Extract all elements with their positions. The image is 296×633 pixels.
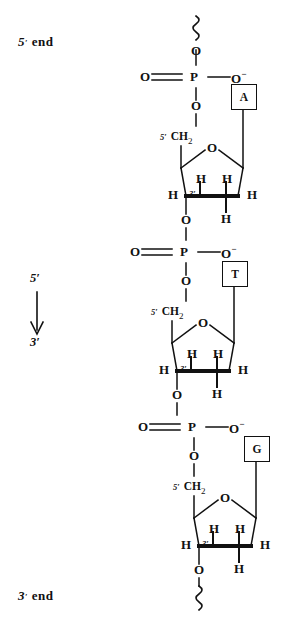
nucleotide3-h-c3: H	[209, 522, 219, 535]
nucleotide1-h-c4: H	[168, 188, 178, 201]
three-prime-end-prime: 3	[18, 588, 25, 603]
base-label-adenine: A	[240, 91, 248, 103]
nucleotide1-h-c1: H	[247, 188, 257, 201]
nucleotide2-c5-methylene: 5′ CH2	[151, 302, 183, 321]
nucleotide1-c3-oxygen: O	[181, 213, 191, 226]
nucleotide3-c3-label: 3′	[202, 540, 209, 549]
nucleotide2-h-c2: H	[213, 347, 223, 360]
phosphate3-oxygen-anion: O−	[229, 420, 244, 436]
nucleotide1-h-c2: H	[222, 172, 232, 185]
nucleotide2-h-c3: H	[187, 347, 197, 360]
nucleotide2-c3-oxygen: O	[172, 388, 182, 401]
phosphate2-double-bond-oxygen: O	[130, 245, 140, 258]
nucleotide2-ring-oxygen: O	[198, 316, 208, 329]
nucleotide2-h-c1: H	[238, 363, 248, 376]
direction-start-label: 5′	[30, 272, 40, 285]
nucleotide2-c3-label: 3′	[180, 365, 187, 374]
five-prime-end-prime: 5	[18, 34, 25, 49]
dna-strand-diagram: 5′ end 3′ end 5′ 3′ O O P O− O 5′ CH2 O …	[0, 0, 296, 633]
nucleotide1-h-c2-lower: H	[221, 212, 231, 225]
nucleotide3-h-c4: H	[181, 538, 191, 551]
nucleotide2-h-c2-lower: H	[212, 387, 222, 400]
phosphate1-phosphorus: P	[190, 70, 198, 83]
nucleotide1-ring-oxygen: O	[207, 141, 217, 154]
three-prime-end-word: end	[32, 588, 54, 603]
bridging-oxygen-top: O	[191, 44, 201, 57]
base-label-guanine: G	[253, 443, 262, 455]
base-box-guanine[interactable]: G	[244, 436, 270, 462]
three-prime-end-label: 3′ end	[18, 589, 53, 602]
base-box-adenine[interactable]: A	[231, 84, 257, 110]
nucleotide1-h-c3: H	[196, 172, 206, 185]
phosphate3-ester-oxygen: O	[189, 449, 199, 462]
five-prime-end-word: end	[32, 34, 54, 49]
nucleotide1-c3-label: 3′	[189, 190, 196, 199]
phosphate3-phosphorus: P	[188, 420, 196, 433]
direction-end-label: 3′	[30, 336, 40, 349]
phosphate1-ester-oxygen: O	[191, 99, 201, 112]
nucleotide3-h-c2: H	[235, 522, 245, 535]
phosphate1-double-bond-oxygen: O	[140, 70, 150, 83]
phosphate2-phosphorus: P	[180, 245, 188, 258]
phosphate2-ester-oxygen: O	[181, 274, 191, 287]
base-box-thymine[interactable]: T	[222, 261, 248, 287]
nucleotide3-c3-oxygen: O	[194, 563, 204, 576]
nucleotide3-h-c2-lower: H	[234, 562, 244, 575]
nucleotide3-h-c1: H	[260, 538, 270, 551]
five-prime-end-label: 5′ end	[18, 35, 53, 48]
base-label-thymine: T	[231, 268, 239, 280]
nucleotide3-c5-methylene: 5′ CH2	[173, 477, 205, 496]
nucleotide2-h-c4: H	[159, 363, 169, 376]
nucleotide1-c5-methylene: 5′ CH2	[160, 127, 192, 146]
nucleotide3-ring-oxygen: O	[220, 491, 230, 504]
phosphate2-oxygen-anion: O−	[221, 245, 236, 261]
phosphate3-double-bond-oxygen: O	[138, 420, 148, 433]
